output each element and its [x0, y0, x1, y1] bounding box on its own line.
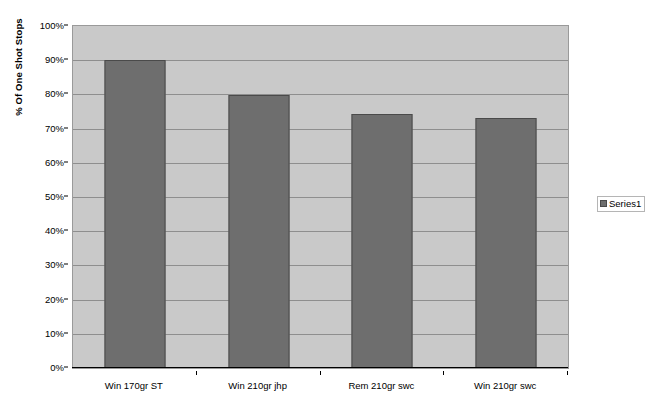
x-axis-line: [72, 367, 568, 368]
bars-layer: [73, 26, 568, 368]
x-tick-mark: [567, 371, 568, 375]
legend: Series1: [597, 196, 645, 212]
y-tick-mark: [64, 127, 68, 128]
y-axis-ticks: 100%90%80%70%60%50%40%30%20%10%0%: [28, 19, 68, 373]
bar[interactable]: [104, 60, 165, 368]
y-tick-mark: [64, 264, 68, 265]
y-tick-mark: [64, 25, 68, 26]
y-tick-mark: [64, 161, 68, 162]
y-tick-mark: [64, 196, 68, 197]
y-tick-label: 100%: [40, 20, 64, 31]
y-tick-label: 0%: [50, 362, 64, 373]
x-tick-label: Win 170gr ST: [105, 380, 163, 391]
y-tick-label: 40%: [45, 225, 64, 236]
bar-chart: % Of One Shot Stops 100%90%80%70%60%50%4…: [0, 0, 662, 419]
bar-slot: [321, 26, 445, 368]
x-axis-labels: Win 170gr STWin 210gr jhpRem 210gr swcWi…: [72, 371, 567, 399]
y-tick-label: 90%: [45, 54, 64, 65]
y-tick-mark: [64, 367, 68, 368]
plot-area: [72, 25, 569, 369]
bar[interactable]: [476, 118, 537, 368]
bar-slot: [73, 26, 197, 368]
y-tick-mark: [64, 332, 68, 333]
y-tick-label: 10%: [45, 327, 64, 338]
x-tick-mark: [320, 371, 321, 375]
x-tick-label: Win 210gr swc: [474, 380, 536, 391]
bar-slot: [197, 26, 321, 368]
y-axis-title: % Of One Shot Stops: [13, 0, 29, 152]
y-tick-label: 20%: [45, 293, 64, 304]
x-tick-label: Win 210gr jhp: [228, 380, 287, 391]
legend-label: Series1: [609, 198, 641, 209]
y-tick-label: 30%: [45, 259, 64, 270]
y-tick-label: 60%: [45, 156, 64, 167]
y-tick-mark: [64, 298, 68, 299]
bar[interactable]: [228, 95, 289, 368]
y-tick-mark: [64, 59, 68, 60]
x-tick-mark: [443, 371, 444, 375]
x-tick-label: Rem 210gr swc: [348, 380, 414, 391]
y-tick-label: 70%: [45, 122, 64, 133]
y-tick-label: 80%: [45, 88, 64, 99]
y-tick-mark: [64, 230, 68, 231]
y-tick-mark: [64, 93, 68, 94]
bar[interactable]: [352, 114, 413, 368]
bar-slot: [444, 26, 568, 368]
legend-swatch-icon: [600, 200, 607, 207]
x-tick-mark: [196, 371, 197, 375]
y-tick-label: 50%: [45, 191, 64, 202]
